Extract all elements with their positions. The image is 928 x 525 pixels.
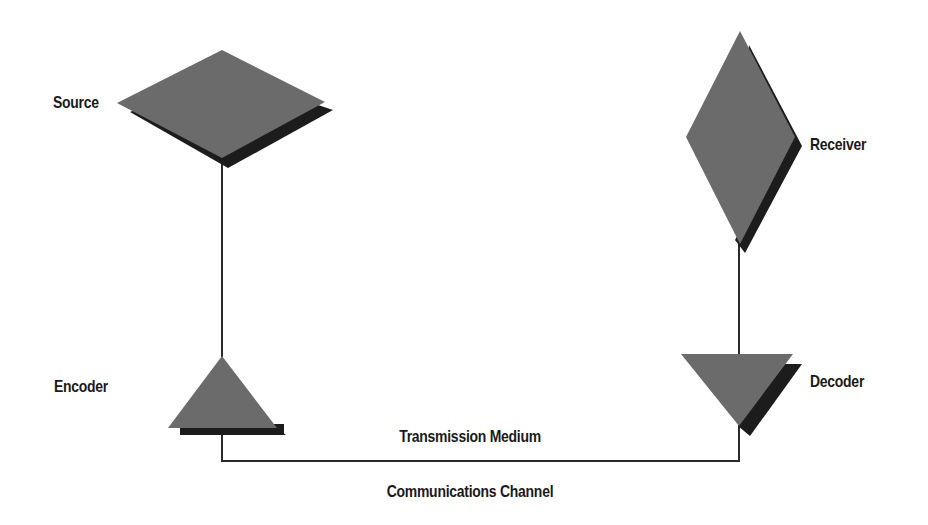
receiver-label: Receiver — [810, 135, 866, 155]
encoder-node — [168, 356, 286, 435]
encoder-triangle — [168, 356, 277, 428]
receiver-diamond — [686, 31, 795, 244]
encoder-label: Encoder — [54, 377, 108, 397]
source-node — [117, 50, 333, 168]
transmission-medium-label: Transmission Medium — [384, 427, 556, 447]
communications-channel-label: Communications Channel — [363, 482, 576, 502]
decoder-label: Decoder — [810, 372, 864, 392]
source-diamond — [117, 50, 325, 158]
source-label: Source — [53, 93, 99, 113]
decoder-node — [681, 354, 802, 436]
encoder-shadow-edge — [180, 428, 286, 435]
connectors — [222, 160, 739, 461]
communication-model-diagram: Source Receiver Encoder Decoder Transmis… — [0, 0, 928, 525]
receiver-node — [686, 31, 802, 253]
